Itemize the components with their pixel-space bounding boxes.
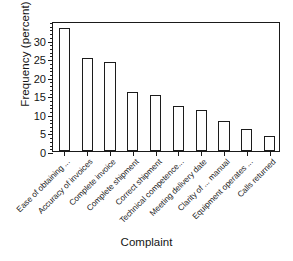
bar	[241, 129, 252, 151]
bar	[150, 95, 161, 151]
y-axis-minor-tick	[50, 86, 53, 87]
y-axis-minor-tick	[50, 82, 53, 83]
x-axis-tick	[224, 151, 225, 156]
y-axis-minor-tick	[50, 131, 53, 132]
y-axis-tick-label: 0	[40, 148, 46, 159]
y-axis-tick-label: 15	[34, 92, 46, 103]
y-axis-minor-tick	[50, 101, 53, 102]
x-axis-tick	[87, 151, 88, 156]
y-axis-minor-tick	[50, 49, 53, 50]
y-axis-minor-tick	[50, 64, 53, 65]
x-axis-tick	[201, 151, 202, 156]
x-axis-title: Complaint	[0, 236, 293, 248]
bar	[218, 121, 229, 151]
y-axis-minor-tick	[50, 27, 53, 28]
y-axis-tick	[48, 97, 53, 98]
y-axis-minor-tick	[50, 149, 53, 150]
bar	[82, 58, 93, 151]
bar	[196, 110, 207, 151]
y-axis-tick	[48, 134, 53, 135]
y-axis-title: Frequency (percent)	[19, 0, 31, 119]
x-axis-tick	[133, 151, 134, 156]
y-axis-minor-tick	[50, 71, 53, 72]
bar	[104, 62, 115, 151]
y-axis-minor-tick	[50, 56, 53, 57]
y-axis-minor-tick	[50, 90, 53, 91]
plot-inner: 051015202530	[53, 23, 279, 151]
y-axis-minor-tick	[50, 105, 53, 106]
y-axis-tick-label: 30	[34, 36, 46, 47]
y-axis-minor-tick	[50, 112, 53, 113]
x-axis-tick	[110, 151, 111, 156]
bar	[59, 28, 70, 151]
y-axis-minor-tick	[50, 108, 53, 109]
x-axis-tick	[178, 151, 179, 156]
y-axis-minor-tick	[50, 127, 53, 128]
y-axis-minor-tick	[50, 146, 53, 147]
y-axis-minor-tick	[50, 23, 53, 24]
y-axis-tick	[48, 60, 53, 61]
y-axis-tick	[48, 116, 53, 117]
y-axis-tick-label: 20	[34, 73, 46, 84]
y-axis-tick	[48, 153, 53, 154]
x-axis-tick	[64, 151, 65, 156]
x-axis-tick	[270, 151, 271, 156]
y-axis-minor-tick	[50, 138, 53, 139]
y-axis-minor-tick	[50, 45, 53, 46]
y-axis-minor-tick	[50, 34, 53, 35]
x-axis-tick	[247, 151, 248, 156]
bar-chart-figure: Frequency (percent) 051015202530 Complai…	[0, 0, 293, 261]
x-axis-tick	[156, 151, 157, 156]
bar	[127, 92, 138, 151]
y-axis-minor-tick	[50, 94, 53, 95]
y-axis-minor-tick	[50, 53, 53, 54]
y-axis-tick	[48, 79, 53, 80]
y-axis-tick-label: 10	[34, 110, 46, 121]
y-axis-minor-tick	[50, 123, 53, 124]
y-axis-minor-tick	[50, 30, 53, 31]
y-axis-tick	[48, 42, 53, 43]
bar	[264, 136, 275, 151]
bar	[173, 106, 184, 151]
y-axis-minor-tick	[50, 120, 53, 121]
y-axis-tick-label: 25	[34, 55, 46, 66]
y-axis-minor-tick	[50, 142, 53, 143]
y-axis-minor-tick	[50, 75, 53, 76]
y-axis-minor-tick	[50, 68, 53, 69]
y-axis-minor-tick	[50, 38, 53, 39]
y-axis-tick-label: 5	[40, 129, 46, 140]
plot-area: 051015202530	[52, 22, 280, 152]
